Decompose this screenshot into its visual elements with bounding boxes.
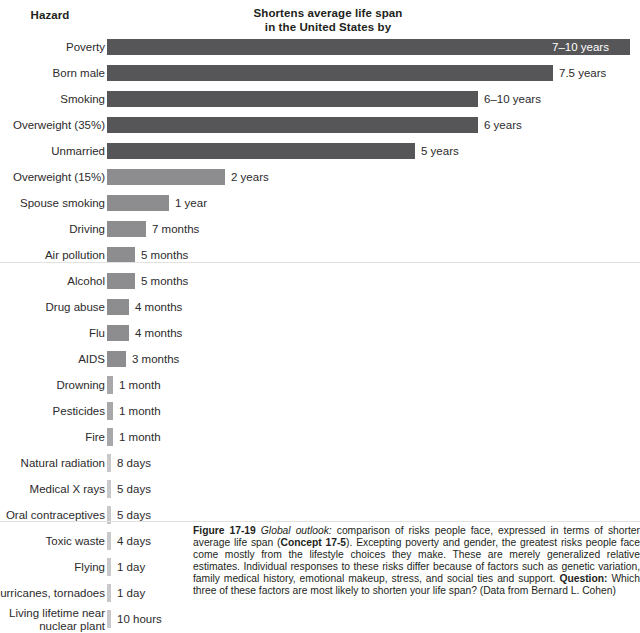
bar-row: Pesticides1 month — [0, 398, 640, 424]
bar-value-label: 5 months — [141, 268, 188, 294]
bar — [107, 428, 113, 446]
bar-value-label: 1 month — [119, 424, 161, 450]
bar-value-label: 4 months — [135, 320, 182, 346]
bar-row: Living lifetime nearnuclear plant10 hour… — [0, 606, 640, 632]
bar — [107, 169, 225, 185]
chart-header: Hazard Shortens average life span in the… — [0, 0, 640, 34]
bar-row-label: Medical X rays — [30, 476, 105, 502]
bar-value-label: 1 year — [175, 190, 207, 216]
bar-row-label: Pesticides — [53, 398, 105, 424]
bar-row: Driving7 months — [0, 216, 640, 242]
bar — [107, 143, 415, 159]
bar-row-label: Overweight (15%) — [13, 164, 105, 190]
bar-value-label: 1 month — [119, 372, 161, 398]
bar — [107, 325, 129, 341]
bar — [107, 402, 113, 420]
value-column-header-line2: in the United States by — [265, 21, 391, 33]
bar-row: Spouse smoking1 year — [0, 190, 640, 216]
bar-value-label: 5 days — [117, 502, 151, 528]
bar-value-label: 4 months — [135, 294, 182, 320]
bar — [107, 532, 111, 550]
bar — [107, 299, 129, 315]
bar — [107, 376, 113, 394]
bar-row: Flu4 months — [0, 320, 640, 346]
bar-row: Drug abuse4 months — [0, 294, 640, 320]
bar-row: Natural radiation8 days — [0, 450, 640, 476]
bar-value-label: 10 hours — [117, 606, 162, 632]
bar — [107, 65, 553, 81]
bar — [107, 558, 111, 576]
bar-row-label: Driving — [69, 216, 105, 242]
bar-row: Overweight (35%)6 years — [0, 112, 640, 138]
caption-concept-ref: Concept 17-5 — [280, 537, 346, 548]
bar — [107, 117, 478, 133]
scan-separator-line — [0, 262, 640, 263]
bar-value-label: 4 days — [117, 528, 151, 554]
bar-value-label: 7.5 years — [559, 60, 606, 86]
bar-row-label: Spouse smoking — [20, 190, 105, 216]
bar-value-label: 6 years — [484, 112, 522, 138]
bar-value-label: 5 months — [141, 242, 188, 268]
bar-row: Born male7.5 years — [0, 60, 640, 86]
bar-row-label: Air pollution — [45, 242, 105, 268]
bar-row-label: Living lifetime nearnuclear plant — [0, 607, 105, 633]
bar-row: Unmarried5 years — [0, 138, 640, 164]
bar-value-label: 6–10 years — [484, 86, 541, 112]
bar-row: Overweight (15%)2 years — [0, 164, 640, 190]
caption-question-label: Question: — [559, 573, 607, 584]
bar-value-label: 1 month — [119, 398, 161, 424]
bar-row-label: Unmarried — [51, 138, 105, 164]
bar-row-label: Born male — [53, 60, 105, 86]
bar — [107, 584, 111, 602]
bar-row-label: Hurricanes, tornadoes — [0, 580, 105, 606]
bar — [107, 247, 135, 263]
value-column-header-line1: Shortens average life span — [254, 7, 403, 19]
bar-value-label: 7–10 years — [552, 34, 609, 60]
bar-row-label: Oral contraceptives — [6, 502, 105, 528]
bar-row-label: Smoking — [60, 86, 105, 112]
value-column-header: Shortens average life span in the United… — [198, 7, 458, 34]
bar-value-label: 1 day — [117, 554, 145, 580]
bar — [107, 480, 111, 498]
bar-row: Alcohol5 months — [0, 268, 640, 294]
bar-row-label: Flying — [74, 554, 105, 580]
figure-caption: Figure 17-19 Global outlook: comparison … — [193, 525, 640, 598]
bar-row-label: AIDS — [78, 346, 105, 372]
bar-row: Drowning1 month — [0, 372, 640, 398]
bar-row-label: Drug abuse — [46, 294, 105, 320]
bar-row-label: Poverty — [66, 34, 105, 60]
bar-row-label: Flu — [89, 320, 105, 346]
scan-separator-line — [0, 521, 640, 522]
bar-value-label: 5 years — [421, 138, 459, 164]
bar-row: Smoking6–10 years — [0, 86, 640, 112]
bar-value-label: 3 months — [132, 346, 179, 372]
bar-row-label: Alcohol — [67, 268, 105, 294]
bar-row: AIDS3 months — [0, 346, 640, 372]
bar-row-label: Toxic waste — [46, 528, 105, 554]
caption-figure-number: Figure 17-19 — [193, 525, 256, 536]
bar-row: Air pollution5 months — [0, 242, 640, 268]
bar-value-label: 1 day — [117, 580, 145, 606]
bar — [107, 454, 111, 472]
bar-row-label: Fire — [85, 424, 105, 450]
bar-row-label: Overweight (35%) — [13, 112, 105, 138]
bar-value-label: 7 months — [152, 216, 199, 242]
bar — [107, 610, 111, 628]
bar — [107, 273, 135, 289]
bar — [107, 351, 126, 367]
bar — [107, 91, 478, 107]
bar-value-label: 2 years — [231, 164, 269, 190]
caption-lead-italic: Global outlook: — [261, 525, 332, 536]
bar-row: Fire1 month — [0, 424, 640, 450]
hazard-column-header: Hazard — [0, 9, 100, 21]
bar-row: Poverty7–10 years — [0, 34, 640, 60]
bar-row-label: Drowning — [56, 372, 105, 398]
bar-value-label: 5 days — [117, 476, 151, 502]
bar-value-label: 8 days — [117, 450, 151, 476]
bar-row: Medical X rays5 days — [0, 476, 640, 502]
bar-row-label: Natural radiation — [21, 450, 105, 476]
bar — [107, 195, 169, 211]
bar — [107, 221, 146, 237]
